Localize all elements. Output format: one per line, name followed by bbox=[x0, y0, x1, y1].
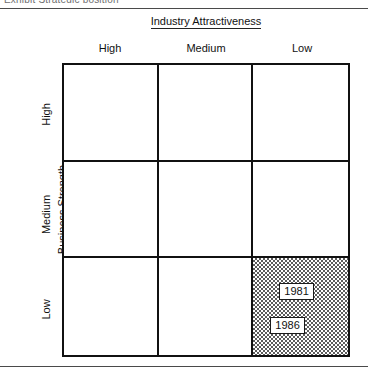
year-marker-1986: 1986 bbox=[270, 317, 304, 334]
column-header-row: High Medium Low bbox=[62, 41, 350, 56]
page-rule-bottom bbox=[0, 366, 368, 367]
cell-high-low bbox=[253, 65, 348, 162]
year-marker-group: 1981 1986 bbox=[253, 258, 348, 355]
cell-high-medium bbox=[159, 65, 254, 162]
row-header-medium: Medium bbox=[40, 166, 53, 264]
cell-low-low-shaded: 1981 1986 bbox=[253, 258, 348, 355]
column-header-high: High bbox=[62, 41, 158, 56]
strategic-position-matrix-figure: Exhibit Strategic position Industry Attr… bbox=[0, 0, 368, 376]
page-rule-top bbox=[0, 8, 368, 9]
row-header-high: High bbox=[40, 66, 53, 164]
column-axis-title: Industry Attractiveness bbox=[62, 14, 350, 28]
matrix-grid: 1981 1986 bbox=[62, 63, 350, 357]
cell-low-medium bbox=[159, 258, 254, 355]
year-marker-1981: 1981 bbox=[279, 283, 313, 300]
cell-medium-low bbox=[253, 162, 348, 259]
cell-high-high bbox=[64, 65, 159, 162]
row-header-low: Low bbox=[40, 261, 53, 359]
clipped-page-header-text: Exhibit Strategic position bbox=[4, 0, 214, 3]
cell-low-high bbox=[64, 258, 159, 355]
cell-medium-medium bbox=[159, 162, 254, 259]
cell-medium-high bbox=[64, 162, 159, 259]
column-header-low: Low bbox=[254, 41, 350, 56]
column-header-medium: Medium bbox=[158, 41, 254, 56]
column-axis-title-label: Industry Attractiveness bbox=[151, 15, 262, 29]
